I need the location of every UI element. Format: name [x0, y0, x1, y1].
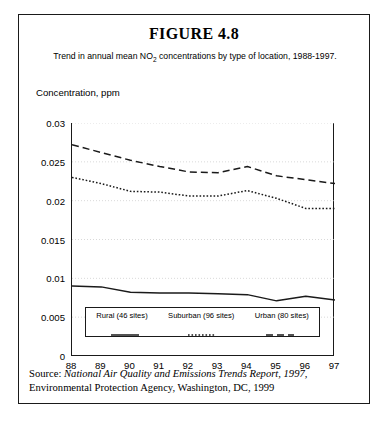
series-line-rural	[72, 286, 335, 301]
source-note: Source: National Air Quality and Emissio…	[29, 367, 365, 395]
series-line-urban	[72, 145, 335, 184]
y-tick-label: 0.02	[46, 195, 65, 206]
y-tick-label: 0	[60, 351, 65, 362]
figure-subtitle-post: concentrations by type of location, 1988…	[157, 51, 337, 61]
legend-key-suburban	[187, 325, 217, 333]
y-tick-label: 0.01	[46, 273, 65, 284]
y-axis-tick-labels: 00.0050.010.0150.020.0250.03	[19, 123, 65, 356]
figure-subtitle-pre: Trend in annual mean NO	[53, 51, 153, 61]
source-report-title: National Air Quality and Emissions Trend…	[64, 368, 307, 379]
y-tick-label: 0.005	[41, 312, 65, 323]
legend-label: Rural (46 sites)	[96, 311, 147, 320]
legend-label: Urban (80 sites)	[255, 311, 309, 320]
figure-subtitle: Trend in annual mean NO2 concentrations …	[33, 51, 357, 64]
legend-label-row: Rural (46 sites)Suburban (96 sites)Urban…	[86, 311, 319, 320]
figure-frame: FIGURE 4.8 Trend in annual mean NO2 conc…	[18, 14, 370, 404]
y-axis-title: Concentration, ppm	[36, 87, 120, 98]
figure-title: FIGURE 4.8	[19, 25, 369, 43]
legend-key-rural	[110, 325, 140, 333]
source-label: Source:	[29, 368, 64, 379]
y-tick-label: 0.015	[41, 234, 65, 245]
legend-key-row	[86, 325, 319, 333]
legend-key-urban	[265, 325, 295, 333]
series-line-suburban	[72, 177, 335, 208]
y-tick-label: 0.025	[41, 156, 65, 167]
y-tick-label: 0.03	[46, 118, 65, 129]
chart-legend: Rural (46 sites)Suburban (96 sites)Urban…	[85, 307, 320, 337]
source-publisher: Environmental Protection Agency, Washing…	[29, 382, 274, 393]
legend-label: Suburban (96 sites)	[168, 311, 234, 320]
